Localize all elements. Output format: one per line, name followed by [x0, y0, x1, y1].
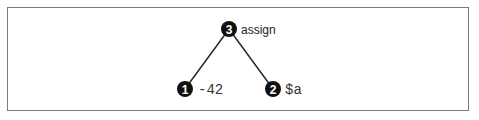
node-2: 2 $a — [265, 81, 302, 98]
tree-diagram: 3 assign 1 -42 2 $a — [0, 0, 479, 120]
node-number: 2 — [270, 83, 277, 97]
edge-3-1 — [185, 29, 229, 89]
node-3: 3 assign — [221, 21, 276, 37]
node-label: $a — [285, 82, 302, 98]
node-number: 3 — [226, 23, 233, 37]
edge-3-2 — [229, 29, 273, 89]
node-label: assign — [241, 23, 276, 37]
node-number: 1 — [182, 83, 189, 97]
node-label: -42 — [198, 82, 223, 98]
node-1: 1 -42 — [177, 81, 223, 98]
